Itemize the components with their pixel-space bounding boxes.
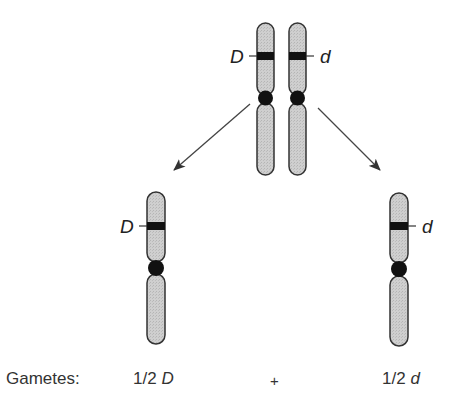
parent-right-allele-label: d [320,47,331,66]
allele: d [410,369,419,388]
arrow-left [174,104,250,170]
allele-band [289,52,306,60]
gamete-chromosome-left [139,192,165,344]
centromere [290,91,305,106]
gamete-right-fraction: 1/2 d [382,370,420,387]
arrow-right [318,108,380,170]
gametes-label: Gametes: [6,370,80,387]
gamete-left-fraction: 1/2 D [133,370,174,387]
parent-left-allele-label: D [230,47,244,66]
lower-arm [147,274,165,344]
allele-band [390,222,408,230]
gamete-left-allele-label: D [120,217,134,236]
lower-arm [257,103,274,175]
lower-arm [390,276,408,346]
centromere [148,260,164,276]
parent-chromosome-right [289,23,314,175]
gamete-chromosome-right [390,193,416,346]
centromere [391,261,407,277]
allele-band [147,222,165,230]
allele: D [161,369,173,388]
parent-chromosome-left [249,23,274,175]
lower-arm [289,103,306,175]
fraction: 1/2 [133,369,157,388]
segregation-diagram [0,0,451,400]
allele-band [257,52,274,60]
gamete-right-allele-label: d [422,217,433,236]
plus-operator: + [270,373,279,388]
centromere [258,91,273,106]
fraction: 1/2 [382,369,406,388]
